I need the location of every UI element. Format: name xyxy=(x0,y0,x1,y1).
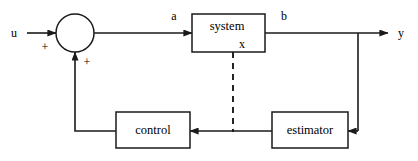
label-signal-b: b xyxy=(281,10,287,22)
label-signal-x: x xyxy=(239,38,245,50)
label-signal-u: u xyxy=(11,27,17,39)
label-sign-feedback: + xyxy=(84,56,91,68)
wire-control-feedback xyxy=(75,52,116,131)
label-signal-a: a xyxy=(171,10,176,22)
label-sign-input: + xyxy=(42,41,49,53)
block-diagram: u + + a system x b y control estimator xyxy=(0,0,418,161)
label-signal-y: y xyxy=(398,27,404,39)
label-block-control: control xyxy=(135,124,170,137)
summing-junction xyxy=(56,14,94,52)
label-block-estimator: estimator xyxy=(287,124,334,137)
label-block-system: system xyxy=(210,20,245,33)
